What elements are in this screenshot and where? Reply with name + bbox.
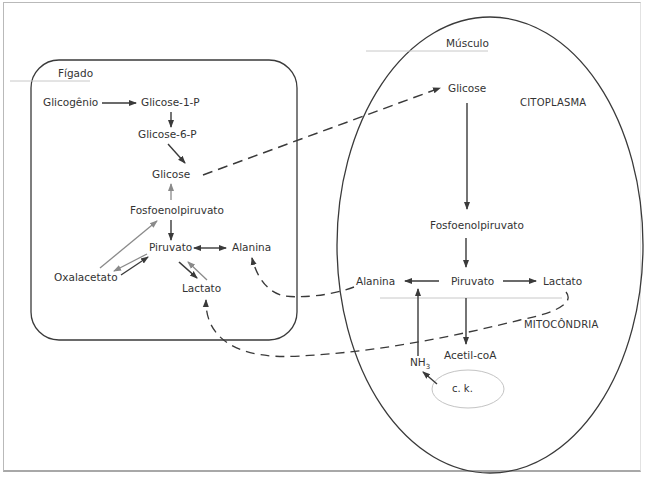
node-lactato-muscle: Lactato bbox=[543, 275, 582, 287]
node-piruvato-muscle: Piruvato bbox=[451, 275, 494, 287]
node-glicose-muscle: Glicose bbox=[448, 82, 486, 94]
muscle-compartment: Músculo CITOPLASMA MITOCÔNDRIA c. k. Gli… bbox=[337, 17, 643, 473]
liver-compartment: Fígado Glicogênio Glicose-1-P Glicose-6-… bbox=[10, 60, 297, 340]
cytoplasm-label: CITOPLASMA bbox=[520, 97, 586, 108]
node-nh3: NH3 bbox=[410, 356, 430, 371]
pathway-diagram: Fígado Glicogênio Glicose-1-P Glicose-6-… bbox=[0, 0, 645, 477]
dashed-glicose-liver-to-muscle bbox=[203, 88, 440, 175]
arrow-ck-nh3 bbox=[423, 372, 437, 384]
node-acetil-coa: Acetil-coA bbox=[444, 349, 497, 361]
node-fosfoenolpiruvato-muscle: Fosfoenolpiruvato bbox=[430, 219, 524, 231]
arrow-lactato-piruvato-liver bbox=[188, 262, 207, 280]
node-glicogenio: Glicogênio bbox=[43, 96, 98, 108]
node-glicose-1-p: Glicose-1-P bbox=[141, 96, 200, 108]
node-lactato-liver: Lactato bbox=[182, 282, 221, 294]
arrow-piruvato-lactato-liver bbox=[179, 262, 197, 278]
node-piruvato-liver: Piruvato bbox=[149, 241, 192, 253]
node-glicose-liver: Glicose bbox=[152, 168, 190, 180]
node-fosfoenolpiruvato-liver: Fosfoenolpiruvato bbox=[130, 204, 224, 216]
arrow-glicose6p-glicose bbox=[168, 144, 185, 163]
node-glicose-6-p: Glicose-6-P bbox=[138, 128, 197, 140]
mitochondria-label: MITOCÔNDRIA bbox=[524, 318, 599, 330]
liver-label: Fígado bbox=[58, 67, 93, 79]
inner-circle-label: c. k. bbox=[452, 383, 473, 394]
node-alanina-liver: Alanina bbox=[232, 241, 271, 253]
node-oxalacetato: Oxalacetato bbox=[54, 271, 118, 283]
dashed-lactato-muscle-to-liver bbox=[206, 292, 568, 357]
muscle-label: Músculo bbox=[446, 37, 489, 49]
node-alanina-muscle: Alanina bbox=[356, 275, 395, 287]
